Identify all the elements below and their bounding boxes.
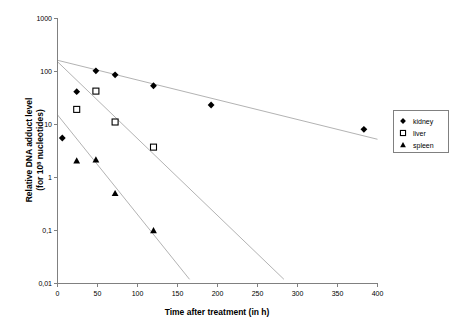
trend-lines xyxy=(58,60,378,279)
x-tick-label: 400 xyxy=(372,290,384,297)
legend-label-liver[interactable]: liver xyxy=(413,130,427,137)
x-tick-label: 200 xyxy=(212,290,224,297)
data-point-spleen xyxy=(150,227,157,233)
legend-label-kidney[interactable]: kidney xyxy=(413,118,434,126)
data-point-spleen xyxy=(112,190,119,196)
x-tick-label: 50 xyxy=(94,290,102,297)
y-tick-label: 0,1 xyxy=(42,227,52,234)
data-markers xyxy=(59,67,367,233)
x-tick-label: 250 xyxy=(252,290,264,297)
data-point-kidney xyxy=(59,135,66,142)
trend-line-liver xyxy=(58,62,284,280)
data-point-liver xyxy=(112,119,118,125)
data-point-spleen xyxy=(73,157,80,163)
y-tick-label: 100 xyxy=(40,68,52,75)
y-axis-title: Relative DNA adduct level (for 108 nucle… xyxy=(24,98,45,203)
data-point-liver xyxy=(93,88,99,94)
x-axis-title: Time after treatment (in h) xyxy=(165,307,270,317)
y-axis-title-prefix: (for 10 xyxy=(35,164,45,190)
x-tick-label: 300 xyxy=(292,290,304,297)
trend-line-spleen xyxy=(58,115,190,279)
data-point-kidney xyxy=(73,88,80,95)
legend: kidneyliverspleen xyxy=(394,111,449,153)
y-tick-label: 10 xyxy=(44,121,52,128)
trend-line-kidney xyxy=(58,60,378,139)
x-tick-label: 0 xyxy=(56,290,60,297)
y-axis-ticks xyxy=(54,18,58,284)
x-tick-label: 100 xyxy=(132,290,144,297)
y-tick-label: 1000 xyxy=(36,15,52,22)
legend-marker-liver xyxy=(400,130,405,135)
y-tick-label: 0,01 xyxy=(38,280,52,287)
x-tick-labels: 050100150200250300350400 xyxy=(56,290,384,297)
y-axis-title-suffix: nucleotides) xyxy=(35,109,45,162)
x-axis-ticks xyxy=(58,284,378,288)
legend-label-spleen[interactable]: spleen xyxy=(413,142,434,150)
data-point-kidney xyxy=(112,71,119,78)
data-point-kidney xyxy=(93,67,100,74)
scatter-plot: 050100150200250300350400 0,010,111010010… xyxy=(0,0,453,329)
x-tick-label: 350 xyxy=(332,290,344,297)
data-point-kidney xyxy=(208,102,215,109)
chart-container: 050100150200250300350400 0,010,111010010… xyxy=(0,0,453,329)
y-tick-label: 1 xyxy=(48,174,52,181)
data-point-liver xyxy=(151,144,157,150)
data-point-kidney xyxy=(361,126,368,133)
x-tick-label: 150 xyxy=(172,290,184,297)
axes xyxy=(58,18,378,284)
y-axis-title-line2: (for 108 nucleotides) xyxy=(35,109,45,191)
y-axis-title-line1: Relative DNA adduct level xyxy=(24,98,34,203)
data-point-liver xyxy=(74,106,80,112)
